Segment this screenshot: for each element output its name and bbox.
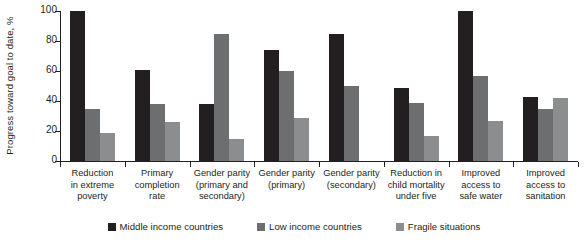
- x-axis-category-label: Improvedaccess tosafe water: [449, 168, 514, 203]
- bar-group: [458, 11, 503, 161]
- x-axis-category-label-line: access to: [513, 180, 578, 192]
- plot-area: 020406080100: [60, 11, 578, 162]
- bar: [344, 86, 359, 161]
- bar: [165, 122, 180, 161]
- legend-swatch-icon: [257, 223, 265, 231]
- bar: [264, 50, 279, 161]
- bar: [199, 104, 214, 161]
- x-axis-category-label-line: Gender parity: [190, 168, 255, 180]
- x-axis-category-label-line: (secondary): [319, 180, 384, 192]
- legend-label: Fragile situations: [408, 221, 481, 232]
- bar: [553, 98, 568, 161]
- bar: [538, 109, 553, 162]
- x-axis-category-label-line: poverty: [60, 191, 125, 203]
- x-axis-category-label-line: Reduction in: [384, 168, 449, 180]
- bar-group: [135, 11, 180, 161]
- x-axis-category-label-line: sanitation: [513, 191, 578, 203]
- x-axis-category-label: Gender parity(primary andsecondary): [190, 168, 255, 203]
- x-axis-category-label-line: Improved: [513, 168, 578, 180]
- x-tick-mark: [254, 162, 255, 167]
- bar-group: [329, 11, 374, 161]
- x-axis-category-label: Reduction inchild mortalityunder five: [384, 168, 449, 203]
- bar: [394, 88, 409, 162]
- y-axis-title: Progress toward goal to date, %: [0, 0, 18, 170]
- bar: [409, 103, 424, 162]
- bar: [135, 70, 150, 162]
- bar: [100, 133, 115, 162]
- x-axis-category-labels: Reductionin extremepovertyPrimarycomplet…: [60, 168, 578, 216]
- y-tick-label: 0: [51, 154, 57, 165]
- x-axis-category-label-line: Improved: [449, 168, 514, 180]
- x-axis-category-label: Primarycompletionrate: [125, 168, 190, 203]
- x-axis-category-label-line: in extreme: [60, 180, 125, 192]
- x-axis-category-label-line: under five: [384, 191, 449, 203]
- legend-swatch-icon: [108, 223, 116, 231]
- bar-group: [264, 11, 309, 161]
- bar-group: [394, 11, 439, 161]
- x-tick-mark: [513, 162, 514, 167]
- bar: [294, 118, 309, 162]
- x-axis-category-label-line: child mortality: [384, 180, 449, 192]
- x-axis-category-label-line: Reduction: [60, 168, 125, 180]
- x-axis-category-label-line: Gender parity: [319, 168, 384, 180]
- x-axis-category-label-line: Primary: [125, 168, 190, 180]
- x-axis-category-label-line: completion: [125, 180, 190, 192]
- bar: [70, 11, 85, 161]
- x-axis-category-label-line: access to: [449, 180, 514, 192]
- legend-label: Low income countries: [269, 221, 362, 232]
- bar: [150, 104, 165, 161]
- legend-item: Middle income countries: [108, 221, 223, 232]
- bar-group: [70, 11, 115, 161]
- x-tick-mark: [578, 162, 579, 167]
- bar: [424, 136, 439, 162]
- bar: [279, 71, 294, 161]
- bar: [458, 11, 473, 161]
- bar-group: [199, 11, 244, 161]
- y-tick-label: 100: [40, 4, 57, 15]
- y-tick-label: 60: [46, 64, 57, 75]
- x-axis-category-label: Reductionin extremepoverty: [60, 168, 125, 203]
- x-axis-category-label-line: rate: [125, 191, 190, 203]
- x-tick-mark: [384, 162, 385, 167]
- x-axis-category-label-line: safe water: [449, 191, 514, 203]
- bar-group: [523, 11, 568, 161]
- legend-item: Fragile situations: [396, 221, 481, 232]
- bar: [523, 97, 538, 162]
- x-axis-category-label-line: Gender parity: [254, 168, 319, 180]
- bar: [229, 139, 244, 162]
- y-tick-label: 40: [46, 94, 57, 105]
- bar: [329, 34, 344, 162]
- chart-legend: Middle income countriesLow income countr…: [0, 221, 588, 232]
- x-axis-category-label: Gender parity(primary): [254, 168, 319, 191]
- bar: [473, 76, 488, 162]
- y-tick-label: 80: [46, 34, 57, 45]
- x-axis-category-label: Gender parity(secondary): [319, 168, 384, 191]
- y-axis-line: [60, 11, 61, 162]
- x-axis-category-label-line: secondary): [190, 191, 255, 203]
- legend-label: Middle income countries: [120, 221, 223, 232]
- y-axis-title-text: Progress toward goal to date, %: [4, 16, 15, 154]
- x-tick-mark: [60, 162, 61, 167]
- x-tick-mark: [190, 162, 191, 167]
- legend-swatch-icon: [396, 223, 404, 231]
- x-axis-category-label: Improvedaccess tosanitation: [513, 168, 578, 203]
- y-tick-label: 20: [46, 124, 57, 135]
- x-tick-mark: [449, 162, 450, 167]
- x-axis-category-label-line: (primary): [254, 180, 319, 192]
- x-axis-category-label-line: (primary and: [190, 180, 255, 192]
- legend-item: Low income countries: [257, 221, 362, 232]
- x-tick-mark: [125, 162, 126, 167]
- bar: [85, 109, 100, 162]
- x-tick-mark: [319, 162, 320, 167]
- bar: [214, 34, 229, 162]
- chart-figure: Progress toward goal to date, % 02040608…: [0, 0, 588, 243]
- bar: [488, 121, 503, 162]
